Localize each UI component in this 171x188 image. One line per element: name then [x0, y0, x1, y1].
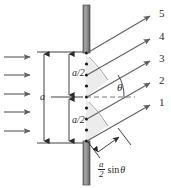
path-difference-wedges	[86, 55, 108, 142]
path-difference-trig: sinθ	[105, 165, 126, 175]
dimension-label-full-width: a	[40, 92, 45, 102]
source-point	[85, 84, 88, 87]
callout-leader-right	[118, 128, 131, 145]
source-point	[85, 106, 88, 109]
ray-label-4: 4	[159, 31, 165, 42]
ray-5	[87, 16, 150, 53]
path-difference-label: a 2 sinθ	[98, 160, 125, 180]
barrier-bottom	[83, 141, 90, 185]
dimension-label-upper-half: a/2	[72, 68, 85, 78]
ray-label-3: 3	[159, 53, 165, 64]
source-point	[85, 128, 88, 131]
single-slit-diffraction-figure: a/2 a a/2 5 4 3 2 1 θ a 2 sinθ	[0, 0, 171, 188]
trig-function-name: sin	[108, 164, 120, 175]
ray-4	[87, 39, 150, 75]
path-difference-measure	[98, 137, 119, 152]
ray-label-2: 2	[159, 75, 165, 86]
barrier-top	[83, 5, 90, 53]
source-point	[85, 62, 88, 65]
ray-label-1: 1	[159, 97, 165, 108]
angle-label-theta: θ	[117, 82, 122, 93]
ray-label-5: 5	[159, 8, 165, 19]
incident-plane-wave-arrows	[4, 57, 30, 131]
figure-canvas	[0, 0, 171, 188]
trig-variable: θ	[119, 164, 125, 175]
dimension-label-lower-half: a/2	[72, 115, 85, 125]
